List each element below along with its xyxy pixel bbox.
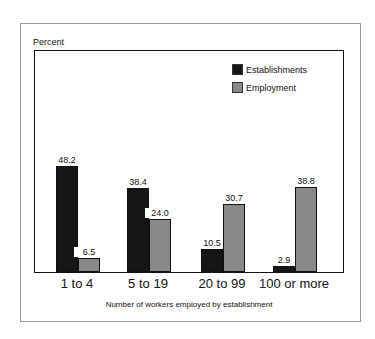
bar-employment (78, 258, 100, 272)
x-tick-label: 100 or more (249, 276, 339, 291)
value-label: 38.4 (123, 177, 153, 187)
bar-establishments (127, 188, 149, 272)
value-label: 30.7 (219, 193, 249, 203)
legend-item-employment: Employment (232, 82, 296, 93)
bar-employment (295, 187, 317, 272)
y-axis-label: Percent (33, 37, 64, 47)
legend-swatch-employment (232, 82, 243, 93)
bar-employment (149, 219, 171, 272)
value-label: 24.0 (145, 208, 175, 218)
legend-label: Establishments (246, 65, 307, 75)
x-axis-label: Number of workers employed by establishm… (34, 300, 344, 309)
legend-label: Employment (246, 83, 296, 93)
bar-establishments (273, 266, 295, 272)
bar-establishments (201, 249, 223, 272)
value-label: 38.8 (291, 176, 321, 186)
legend-item-establishments: Establishments (232, 64, 307, 75)
value-label: 6.5 (74, 247, 104, 257)
value-label: 48.2 (52, 155, 82, 165)
bar-employment (223, 204, 245, 272)
plot-area: Establishments Employment 48.26.538.424.… (34, 50, 344, 273)
legend-swatch-establishments (232, 64, 243, 75)
